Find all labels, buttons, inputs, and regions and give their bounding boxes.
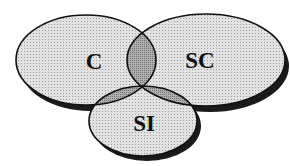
label-c: C	[86, 49, 103, 74]
venn-diagram: C SC SI	[0, 0, 290, 166]
venn-svg: C SC SI	[0, 0, 290, 166]
label-sc: SC	[185, 48, 214, 73]
label-si: SI	[133, 111, 155, 136]
